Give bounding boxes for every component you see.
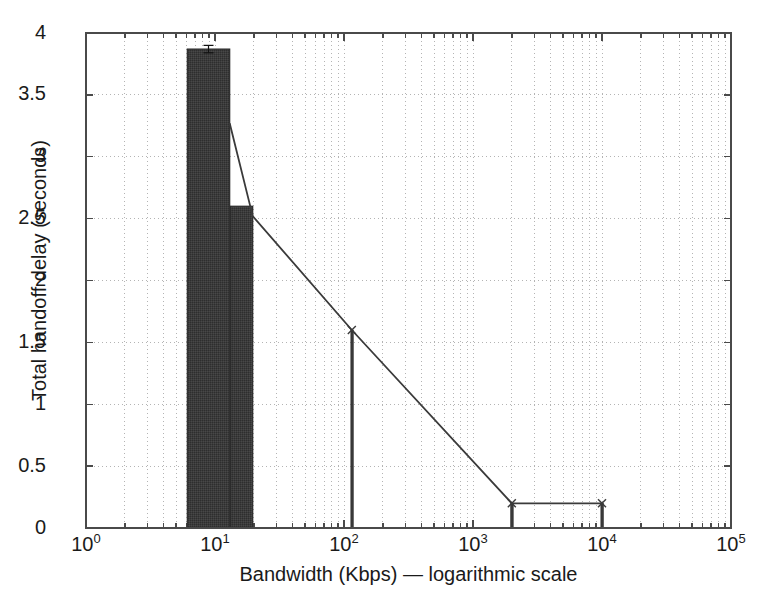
bar	[231, 206, 253, 528]
line-series	[230, 123, 606, 507]
bar	[187, 49, 229, 528]
gridlines	[86, 33, 731, 528]
bar	[511, 503, 514, 528]
bar	[351, 330, 353, 528]
bar	[601, 503, 604, 528]
chart-figure: Total handoff delay (seconds) Bandwidth …	[0, 0, 767, 598]
plot-area	[0, 0, 767, 598]
bar-series	[187, 45, 603, 528]
